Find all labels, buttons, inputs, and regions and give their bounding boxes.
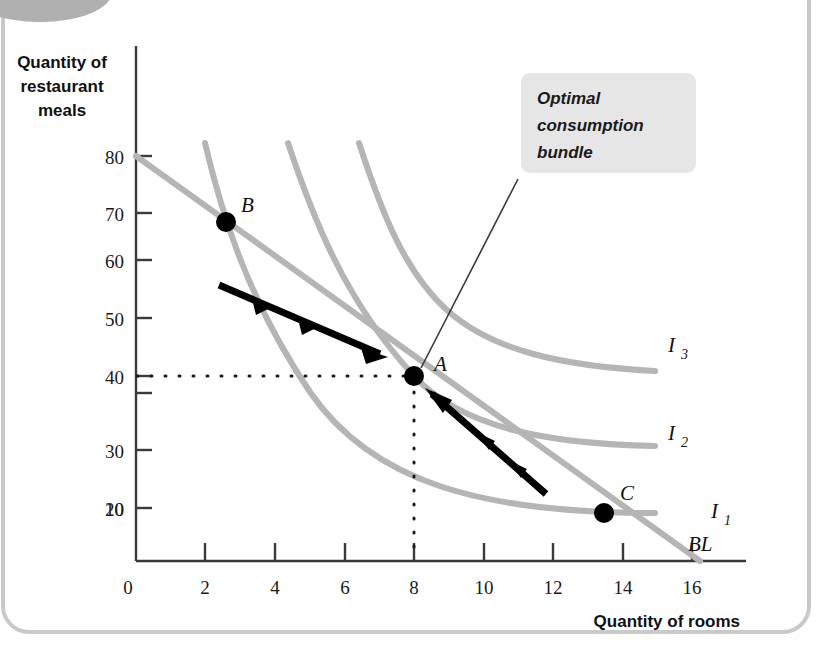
y-tick-label-30b: 30 (105, 441, 124, 462)
callout-line-2: consumption (537, 116, 644, 135)
curve-label-I2-sub: 2 (681, 435, 688, 450)
x-tick-label-2: 2 (200, 577, 210, 598)
x-tick-label-8: 8 (409, 577, 419, 598)
curve-label-I3-sub: 3 (680, 347, 688, 362)
y-axis-title-line1: Quantity of (17, 53, 107, 72)
data-point-label-B: B (241, 193, 254, 217)
corner-tab (0, 0, 112, 22)
x-tick-label-4: 4 (270, 577, 280, 598)
curve-label-I1-text: I (710, 499, 719, 523)
curve-label-I3: I 3 (667, 333, 688, 362)
x-tick-label-16: 16 (683, 577, 702, 598)
origin-label: 0 (123, 577, 133, 598)
y-tick-marks (136, 156, 152, 508)
x-tick-label-6: 6 (340, 577, 350, 598)
y-tick-label-80: 80 (105, 147, 124, 168)
x-tick-labels: 2 4 6 8 10 12 14 16 (200, 577, 701, 598)
indifference-curve-I1 (205, 143, 655, 513)
y-tick-label-50: 50 (105, 309, 124, 330)
arrow-from-B-to-A (219, 285, 388, 364)
callout-line-3: bundle (537, 143, 593, 162)
y-axis-title-line2: restaurant (20, 77, 103, 96)
data-point-C[interactable] (594, 503, 614, 523)
curve-label-I1: I 1 (710, 499, 731, 528)
data-point-B[interactable] (216, 212, 236, 232)
y-tick-label-10-shown: 10 (105, 499, 124, 520)
curve-label-I2-text: I (667, 421, 676, 445)
y-tick-label-40: 40 (105, 367, 124, 388)
x-tick-marks (205, 543, 692, 561)
indifference-curve-chart: 80 70 60 50 40 30 30 20 10 10 0 2 4 6 8 … (0, 0, 818, 653)
callout-line-1: Optimal (537, 89, 602, 108)
x-tick-label-14: 14 (614, 577, 634, 598)
figure-container: 80 70 60 50 40 30 30 20 10 10 0 2 4 6 8 … (0, 0, 818, 653)
curve-label-I1-sub: 1 (724, 513, 731, 528)
y-tick-label-60: 60 (105, 251, 124, 272)
x-tick-label-12: 12 (544, 577, 563, 598)
indifference-curve-I3 (359, 143, 655, 371)
curve-label-I3-text: I (667, 333, 676, 357)
y-tick-label-70: 70 (105, 204, 124, 225)
data-point-label-C: C (620, 481, 635, 505)
curve-label-BL: BL (688, 532, 713, 556)
x-tick-label-10: 10 (475, 577, 494, 598)
curve-label-I2: I 2 (667, 421, 688, 450)
data-point-label-A: A (432, 352, 447, 376)
y-axis-title: Quantity of restaurant meals (17, 53, 107, 120)
x-axis-title: Quantity of rooms (594, 612, 740, 631)
y-axis-title-line3: meals (38, 101, 86, 120)
callout-leader-line (421, 179, 518, 368)
data-point-A[interactable] (404, 366, 424, 386)
